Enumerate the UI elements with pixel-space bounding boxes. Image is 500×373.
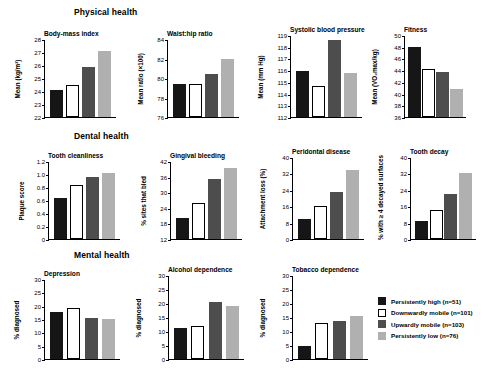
- y-tick-label-fitness-5: 46: [394, 56, 401, 62]
- y-tick-label-tobacco_dependence-0: 0: [286, 357, 289, 363]
- bar-tobacco_dependence-2: [333, 321, 346, 359]
- bar-group-periodontal_disease: [293, 158, 364, 239]
- y-tick-label-waist_hip-1: 78: [157, 96, 164, 102]
- chart-title-fitness: Fitness: [404, 26, 427, 33]
- legend-label-g1: Downwardly mobile (n=101): [391, 309, 473, 316]
- y-tick-label-waist_hip-4: 84: [157, 37, 164, 43]
- legend-swatch-g2: [378, 320, 386, 328]
- y-tick-label-bmi-6: 28: [34, 37, 41, 43]
- y-tick-label-fitness-7: 50: [394, 33, 401, 39]
- bar-tobacco_dependence-0: [298, 346, 311, 359]
- y-axis-title-alcohol_dependence: % diagnosed: [135, 276, 142, 360]
- bar-group-gingival_bleeding: [171, 162, 242, 239]
- bar-bmi-1: [66, 85, 79, 117]
- legend-label-g0: Persistently high (n=51): [391, 298, 461, 305]
- y-tick-depression-0: [42, 360, 45, 361]
- plot-area-tooth_decay: 0816243240: [410, 158, 476, 240]
- bar-alcohol_dependence-0: [174, 328, 187, 359]
- plot-area-fitness: 3638404244464850: [404, 36, 466, 118]
- section-title-physical: Physical health: [74, 7, 137, 17]
- bar-group-tooth_cleanliness: [49, 162, 120, 239]
- bar-waist_hip-1: [189, 84, 202, 117]
- y-tick-gingival_bleeding-0: [168, 240, 171, 241]
- bar-waist_hip-3: [221, 59, 234, 118]
- chart-title-gingival_bleeding: Gingival bleeding: [170, 152, 225, 159]
- bar-periodontal_disease-2: [330, 192, 343, 239]
- bar-bmi-0: [50, 90, 63, 117]
- y-tick-label-tooth_cleanliness-3: 0.6: [37, 198, 45, 204]
- bar-group-tooth_decay: [411, 158, 476, 239]
- y-tick-label-tobacco_dependence-3: 15: [282, 315, 289, 321]
- chart-title-systolic_bp: Systolic blood pressure: [290, 26, 365, 33]
- y-tick-label-periodontal_disease-5: 40: [282, 155, 289, 161]
- legend-item-g3: Persistently low (n=76): [378, 332, 473, 340]
- y-tick-label-tooth_decay-2: 16: [400, 204, 407, 210]
- y-tick-label-tooth_decay-1: 8: [404, 221, 407, 227]
- chart-title-tobacco_dependence: Tobacco dependence: [292, 266, 359, 273]
- y-tick-label-tooth_cleanliness-0: 0: [42, 237, 45, 243]
- bar-bmi-3: [98, 51, 111, 117]
- y-tick-periodontal_disease-0: [290, 240, 293, 241]
- y-axis-title-tobacco_dependence: % diagnosed: [259, 276, 266, 360]
- bar-periodontal_disease-1: [314, 206, 327, 239]
- y-tick-label-systolic_bp-1: 113: [277, 103, 287, 109]
- y-tick-label-depression-4: 20: [34, 304, 41, 310]
- chart-title-bmi: Body-mass index: [44, 30, 99, 37]
- plot-area-bmi: 22232425262728: [44, 40, 116, 118]
- legend-swatch-g1: [378, 309, 386, 317]
- y-tick-label-bmi-5: 27: [34, 50, 41, 56]
- y-tick-label-waist_hip-0: 76: [157, 115, 164, 121]
- legend: Persistently high (n=51)Downwardly mobil…: [378, 297, 473, 343]
- y-tick-label-alcohol_dependence-4: 20: [158, 301, 165, 307]
- bar-gingival_bleeding-0: [176, 218, 189, 239]
- y-tick-label-waist_hip-2: 80: [157, 76, 164, 82]
- y-tick-label-systolic_bp-0: 112: [277, 115, 287, 121]
- bar-systolic_bp-0: [296, 71, 309, 117]
- y-tick-label-systolic_bp-4: 116: [277, 68, 287, 74]
- y-tick-label-depression-6: 30: [34, 277, 41, 283]
- bar-fitness-1: [422, 69, 435, 117]
- bar-tooth_cleanliness-0: [54, 198, 67, 239]
- y-tick-label-tobacco_dependence-6: 30: [282, 273, 289, 279]
- y-tick-label-fitness-3: 42: [394, 80, 401, 86]
- bar-tobacco_dependence-1: [315, 323, 328, 359]
- y-axis-title-tooth_cleanliness: Plaque score: [18, 162, 25, 240]
- bar-alcohol_dependence-1: [191, 326, 204, 359]
- bar-tooth_cleanliness-3: [102, 173, 115, 239]
- y-tick-label-tooth_decay-5: 40: [400, 155, 407, 161]
- y-tick-label-alcohol_dependence-2: 10: [158, 329, 165, 335]
- bar-fitness-3: [450, 89, 463, 117]
- legend-item-g0: Persistently high (n=51): [378, 297, 473, 305]
- plot-area-tooth_cleanliness: 00.20.40.60.81.01.2: [48, 162, 120, 240]
- legend-label-g3: Persistently low (n=76): [391, 332, 458, 339]
- chart-title-waist_hip: Waist:hip ratio: [167, 30, 213, 37]
- bar-fitness-2: [436, 72, 449, 117]
- y-tick-tobacco_dependence-0: [290, 360, 293, 361]
- y-tick-label-tooth_cleanliness-4: 0.8: [37, 185, 45, 191]
- plot-area-gingival_bleeding: 121824303642: [170, 162, 242, 240]
- y-tick-label-periodontal_disease-1: 8: [286, 221, 289, 227]
- y-tick-label-gingival_bleeding-0: 12: [160, 237, 167, 243]
- y-tick-label-systolic_bp-5: 117: [277, 56, 287, 62]
- bar-group-alcohol_dependence: [169, 276, 244, 359]
- bar-waist_hip-2: [205, 74, 218, 117]
- y-tick-label-tooth_cleanliness-6: 1.2: [37, 159, 45, 165]
- y-tick-label-alcohol_dependence-5: 25: [158, 287, 165, 293]
- y-axis-title-depression: % diagnosed: [13, 280, 20, 360]
- y-tick-label-fitness-0: 36: [394, 115, 401, 121]
- y-tick-label-depression-5: 25: [34, 290, 41, 296]
- chart-title-tooth_cleanliness: Tooth cleanliness: [48, 152, 103, 159]
- y-tick-label-tobacco_dependence-2: 10: [282, 329, 289, 335]
- bar-tooth_decay-1: [430, 210, 443, 239]
- y-tick-label-tooth_decay-4: 32: [400, 171, 407, 177]
- bar-bmi-2: [82, 67, 95, 117]
- y-tick-label-bmi-1: 23: [34, 102, 41, 108]
- bar-fitness-0: [408, 47, 421, 117]
- bar-tooth_cleanliness-2: [86, 177, 99, 239]
- y-tick-label-tooth_cleanliness-1: 0.2: [37, 224, 45, 230]
- y-tick-label-alcohol_dependence-6: 30: [158, 273, 165, 279]
- y-tick-label-gingival_bleeding-4: 36: [160, 175, 167, 181]
- plot-area-systolic_bp: 112113114115116117118119: [290, 36, 362, 118]
- plot-area-waist_hip: 7678808284: [167, 40, 239, 118]
- y-tick-label-periodontal_disease-2: 16: [282, 204, 289, 210]
